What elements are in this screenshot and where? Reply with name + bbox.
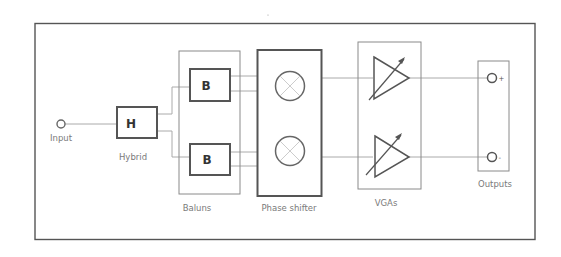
- variable-gain-amplifier-icon: [366, 133, 409, 177]
- balun-1-glyph: B: [201, 79, 210, 93]
- phase-shifter-label: Phase shifter: [261, 203, 317, 213]
- balun-2-glyph: B: [202, 153, 211, 167]
- baluns-group: B B Baluns: [179, 51, 240, 213]
- input-terminal: Input: [50, 120, 73, 143]
- vgas-group: VGAs: [358, 42, 421, 208]
- output-minus-sign: -: [499, 154, 502, 162]
- output-plus-sign: +: [499, 75, 505, 83]
- phase-shifter-block: Phase shifter: [258, 50, 322, 213]
- output-minus-circle-icon: [488, 153, 497, 162]
- hybrid-glyph: H: [126, 117, 136, 131]
- output-terminal-plus: +: [488, 74, 505, 83]
- variable-gain-amplifier-icon: [369, 57, 409, 100]
- balun-block-1: B: [190, 69, 230, 101]
- input-label: Input: [50, 133, 73, 143]
- mixer-icon: [276, 72, 305, 101]
- balun-block-2: B: [190, 144, 230, 175]
- mixer-icon: [276, 137, 305, 166]
- block-diagram: Input H Hybrid B B Baluns Phase: [0, 0, 561, 257]
- output-plus-circle-icon: [488, 74, 497, 83]
- output-terminal-minus: -: [488, 153, 502, 162]
- stray-dot: [267, 14, 268, 15]
- baluns-label: Baluns: [183, 203, 212, 213]
- hybrid-label: Hybrid: [119, 152, 147, 162]
- hybrid-block: H Hybrid: [117, 107, 157, 162]
- input-circle-icon: [57, 120, 65, 128]
- outputs-label: Outputs: [478, 179, 513, 189]
- vgas-label: VGAs: [375, 198, 398, 208]
- outputs-group: + - Outputs: [478, 61, 513, 189]
